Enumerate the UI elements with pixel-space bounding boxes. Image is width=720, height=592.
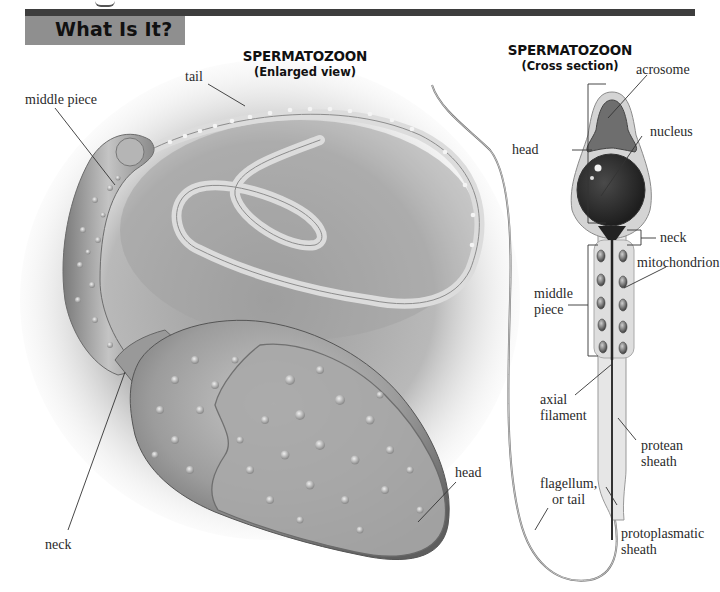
- label-cs-middle-piece-line2: piece: [534, 302, 573, 318]
- label-nucleus: nucleus: [650, 124, 693, 140]
- label-protean-sheath-line2: sheath: [641, 454, 683, 470]
- label-axial-filament: axial filament: [540, 392, 587, 424]
- label-protean-sheath-line1: protean: [641, 438, 683, 454]
- label-protoplasmatic-sheath: protoplasmatic sheath: [621, 526, 704, 558]
- label-head: head: [455, 465, 481, 481]
- label-acrosome: acrosome: [636, 62, 690, 78]
- label-cs-neck: neck: [660, 230, 686, 246]
- cross-section-figure-title: SPERMATOZOON (Cross section): [500, 42, 640, 73]
- label-cs-middle-piece-line1: middle: [534, 286, 573, 302]
- label-middle-piece: middle piece: [25, 92, 97, 108]
- label-cs-head: head: [512, 142, 538, 158]
- label-tail: tail: [185, 69, 203, 85]
- label-protean-sheath: protean sheath: [641, 438, 683, 470]
- spermatozoon-illustration: [0, 0, 720, 592]
- label-protoplasmatic-sheath-line1: protoplasmatic: [621, 526, 704, 542]
- label-neck: neck: [45, 537, 71, 553]
- label-axial-filament-line1: axial: [540, 392, 587, 408]
- label-cs-middle-piece: middle piece: [534, 286, 573, 318]
- label-protoplasmatic-sheath-line2: sheath: [621, 542, 704, 558]
- enlarged-subtitle: (Enlarged view): [235, 65, 375, 79]
- cross-section-title: SPERMATOZOON: [500, 42, 640, 58]
- label-flagellum-line2: or tail: [540, 492, 597, 508]
- cross-section-spermatozoon: [571, 92, 651, 540]
- label-flagellum: flagellum, or tail: [540, 476, 597, 508]
- label-axial-filament-line2: filament: [540, 408, 587, 424]
- label-mitochondrion: mitochondrion: [637, 255, 719, 271]
- enlarged-title: SPERMATOZOON: [235, 48, 375, 64]
- enlarged-figure-title: SPERMATOZOON (Enlarged view): [235, 48, 375, 79]
- cross-section-subtitle: (Cross section): [500, 59, 640, 73]
- label-flagellum-line1: flagellum,: [540, 476, 597, 492]
